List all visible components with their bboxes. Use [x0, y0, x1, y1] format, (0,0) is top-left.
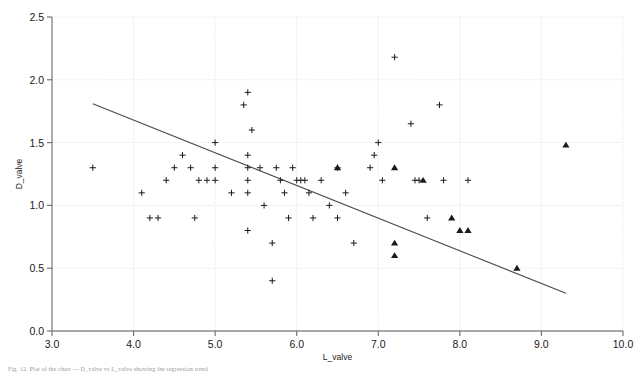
data-point-plus — [281, 190, 287, 196]
data-point-plus — [261, 202, 267, 208]
data-point-plus — [440, 177, 446, 183]
x-tick-label: 10.0 — [613, 338, 634, 350]
data-point-triangle — [391, 164, 398, 170]
x-tick-label: 4.0 — [126, 338, 141, 350]
data-point-plus — [367, 165, 373, 171]
data-point-plus — [245, 165, 251, 171]
y-axis-title: D_valve — [14, 158, 24, 189]
grid-lines — [52, 17, 623, 331]
y-tick-label: 0.5 — [29, 262, 44, 274]
data-point-plus — [245, 227, 251, 233]
data-point-plus — [334, 215, 340, 221]
series-triangle-series — [334, 142, 570, 271]
data-point-plus — [228, 190, 234, 196]
data-point-plus — [269, 240, 275, 246]
data-point-plus — [343, 190, 349, 196]
data-point-plus — [179, 152, 185, 158]
data-point-plus — [245, 152, 251, 158]
data-point-triangle — [391, 240, 398, 246]
data-point-plus — [245, 177, 251, 183]
data-point-plus — [163, 177, 169, 183]
data-point-plus — [249, 127, 255, 133]
axes — [52, 17, 623, 331]
series-plus-series — [90, 54, 471, 284]
x-axis-title: L_valve — [323, 352, 353, 362]
data-point-plus — [212, 165, 218, 171]
x-tick-label: 3.0 — [45, 338, 60, 350]
x-tick-label: 5.0 — [208, 338, 223, 350]
figure-caption: Fig. 12. Plot of the chart — D_valve vs … — [8, 364, 628, 374]
data-point-plus — [139, 190, 145, 196]
data-point-plus — [375, 140, 381, 146]
data-point-plus — [196, 177, 202, 183]
data-point-plus — [424, 215, 430, 221]
data-point-plus — [371, 152, 377, 158]
data-point-plus — [290, 165, 296, 171]
y-tick-label: 1.0 — [29, 199, 44, 211]
y-tick-label: 2.5 — [29, 11, 44, 23]
data-point-plus — [147, 215, 153, 221]
data-point-plus — [241, 102, 247, 108]
data-point-triangle — [391, 252, 398, 258]
data-point-plus — [326, 202, 332, 208]
data-point-plus — [212, 140, 218, 146]
x-tick-label: 8.0 — [453, 338, 468, 350]
data-point-plus — [90, 165, 96, 171]
data-point-triangle — [448, 215, 455, 221]
y-tick-label: 0.0 — [29, 325, 44, 337]
tick-group: 0.00.51.01.52.02.53.04.05.06.07.08.09.01… — [29, 11, 633, 350]
y-tick-label: 1.5 — [29, 137, 44, 149]
data-point-plus — [436, 102, 442, 108]
data-point-plus — [408, 121, 414, 127]
data-point-plus — [392, 54, 398, 60]
data-point-plus — [379, 177, 385, 183]
x-tick-label: 7.0 — [371, 338, 386, 350]
figure-container: 0.00.51.01.52.02.53.04.05.06.07.08.09.01… — [0, 0, 637, 377]
data-point-plus — [285, 215, 291, 221]
data-point-plus — [273, 165, 279, 171]
data-point-plus — [310, 215, 316, 221]
data-point-triangle — [456, 227, 463, 233]
data-point-triangle — [513, 265, 520, 271]
data-point-plus — [212, 177, 218, 183]
data-point-plus — [171, 165, 177, 171]
regression-line — [93, 104, 566, 294]
data-point-plus — [318, 177, 324, 183]
data-point-triangle — [562, 142, 569, 148]
data-point-plus — [155, 215, 161, 221]
data-point-plus — [245, 89, 251, 95]
data-point-triangle — [464, 227, 471, 233]
data-point-plus — [351, 240, 357, 246]
data-point-plus — [188, 165, 194, 171]
data-point-plus — [245, 190, 251, 196]
data-point-plus — [192, 215, 198, 221]
data-point-plus — [269, 278, 275, 284]
y-tick-label: 2.0 — [29, 74, 44, 86]
data-point-plus — [465, 177, 471, 183]
x-tick-label: 6.0 — [289, 338, 304, 350]
data-point-plus — [204, 177, 210, 183]
data-point-plus — [302, 177, 308, 183]
x-tick-label: 9.0 — [534, 338, 549, 350]
scatter-plot: 0.00.51.01.52.02.53.04.05.06.07.08.09.01… — [0, 0, 637, 377]
